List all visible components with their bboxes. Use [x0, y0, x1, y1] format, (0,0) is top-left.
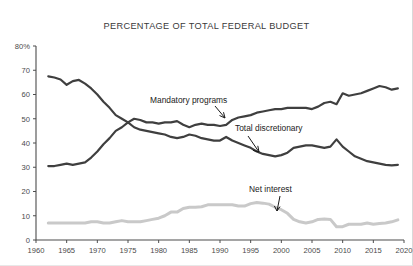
y-tick-label: 10	[22, 212, 30, 221]
x-tick-label: 2020	[396, 246, 413, 255]
x-tick-label: 1970	[89, 246, 106, 255]
annotation-net-interest: Net interest	[249, 184, 292, 194]
annotation-total-discretionary: Total discretionary	[235, 123, 303, 133]
y-tick-label: 60	[22, 90, 30, 99]
series-line-total-discretionary	[48, 76, 398, 165]
series-line-net-interest	[48, 202, 398, 226]
x-tick-label: 1985	[181, 246, 198, 255]
x-tick-label: 1965	[58, 246, 75, 255]
x-tick-label: 1960	[28, 246, 45, 255]
x-tick-label: 1980	[150, 246, 167, 255]
x-tick-label: 1995	[242, 246, 259, 255]
y-tick-label: 40	[22, 139, 30, 148]
x-tick-label: 2000	[273, 246, 290, 255]
y-axis-ticks: 01020304050607080%	[15, 42, 36, 245]
x-tick-label: 2005	[304, 246, 321, 255]
y-tick-label: 0	[26, 236, 30, 245]
y-tick-label: 50	[22, 115, 30, 124]
y-tick-label: 20	[22, 187, 30, 196]
chart-plot-area: 01020304050607080% 196019651970197519801…	[0, 0, 413, 266]
y-tick-label: 70	[22, 66, 30, 75]
chart-figure: PERCENTAGE OF TOTAL FEDERAL BUDGET 01020…	[0, 0, 413, 266]
y-tick-label: 30	[22, 163, 30, 172]
x-tick-label: 2015	[365, 246, 382, 255]
x-tick-label: 1990	[212, 246, 229, 255]
x-tick-label: 2010	[334, 246, 351, 255]
x-tick-label: 1975	[120, 246, 137, 255]
y-tick-label: 80%	[15, 42, 30, 51]
axis-lines	[36, 46, 404, 240]
annotation-mandatory-programs: Mandatory programs	[150, 95, 227, 105]
x-axis-ticks: 1960196519701975198019851990199520002005…	[28, 240, 413, 255]
